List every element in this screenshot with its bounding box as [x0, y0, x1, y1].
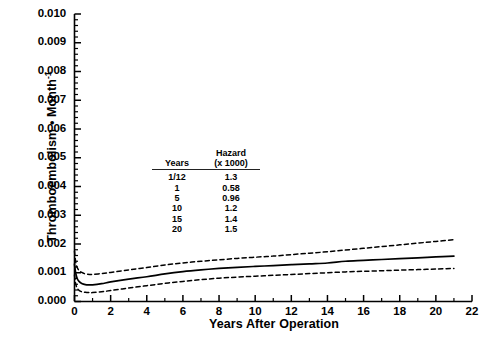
inset-cell-years: 1 [152, 183, 202, 193]
inset-table-body: 1/121.310.5850.96101.2151.4201.5 [152, 170, 260, 235]
inset-header-years: Years [152, 148, 202, 170]
inset-cell-years: 1/12 [152, 170, 202, 183]
y-tick-label: 0.008 [14, 64, 66, 76]
y-tick-label: 0.001 [14, 265, 66, 277]
y-tick-label: 0.003 [14, 208, 66, 220]
inset-table-row: 151.4 [152, 214, 260, 224]
y-tick-label: 0.002 [14, 237, 66, 249]
inset-table-row: 101.2 [152, 203, 260, 213]
inset-table-head: Years Hazard (x 1000) [152, 148, 260, 170]
inset-cell-hazard: 1.2 [202, 203, 260, 213]
x-axis-label-text: Years After Operation [209, 317, 339, 331]
inset-hazard-table: Years Hazard (x 1000) 1/121.310.5850.961… [152, 148, 260, 235]
inset-cell-years: 20 [152, 224, 202, 234]
x-tick-label: 6 [168, 305, 198, 317]
inset-cell-years: 5 [152, 193, 202, 203]
hazard-function-chart: Thromboembolism • Month-1 0.0000.0010.00… [0, 0, 497, 344]
x-tick-label: 12 [276, 305, 306, 317]
x-tick-label: 10 [240, 305, 270, 317]
inset-table-header-row: Years Hazard (x 1000) [152, 148, 260, 170]
y-tick-label: 0.000 [14, 294, 66, 306]
inset-cell-hazard: 1.5 [202, 224, 260, 234]
inset-table-row: 201.5 [152, 224, 260, 234]
x-tick-label: 14 [312, 305, 342, 317]
y-tick-label: 0.005 [14, 150, 66, 162]
y-tick-label: 0.010 [14, 7, 66, 19]
inset-header-hazard: Hazard (x 1000) [202, 148, 260, 170]
y-tick-label: 0.009 [14, 35, 66, 47]
inset-table-row: 1/121.3 [152, 170, 260, 183]
data-series-group [75, 240, 454, 293]
y-tick-label: 0.006 [14, 122, 66, 134]
inset-cell-hazard: 0.96 [202, 193, 260, 203]
confidence-band-curve-1 [75, 240, 454, 275]
x-axis-label: Years After Operation [74, 317, 474, 331]
inset-table-row: 10.58 [152, 183, 260, 193]
x-tick-label: 16 [349, 305, 379, 317]
x-tick-label: 2 [96, 305, 126, 317]
inset-header-hazard-sub: (x 1000) [208, 158, 254, 168]
x-axis-ticks [75, 295, 473, 302]
confidence-band-curve-2 [75, 268, 454, 292]
x-tick-label: 4 [132, 305, 162, 317]
inset-table-row: 50.96 [152, 193, 260, 203]
y-tick-label: 0.007 [14, 93, 66, 105]
inset-cell-hazard: 0.58 [202, 183, 260, 193]
inset-cell-years: 15 [152, 214, 202, 224]
inset-cell-hazard: 1.3 [202, 170, 260, 183]
x-tick-label: 22 [457, 305, 487, 317]
x-tick-label: 18 [385, 305, 415, 317]
inset-header-hazard-text: Hazard [216, 148, 246, 158]
x-tick-label: 20 [421, 305, 451, 317]
x-tick-label: 8 [204, 305, 234, 317]
inset-header-years-text: Years [165, 158, 189, 168]
y-tick-label: 0.004 [14, 179, 66, 191]
inset-cell-hazard: 1.4 [202, 214, 260, 224]
inset-cell-years: 10 [152, 203, 202, 213]
x-tick-label: 0 [60, 305, 90, 317]
